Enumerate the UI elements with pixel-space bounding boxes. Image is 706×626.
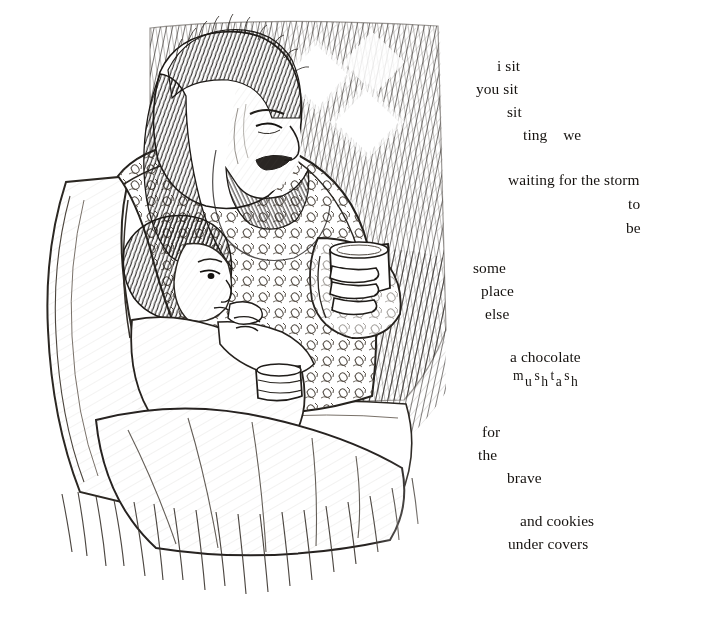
poem-line: and cookies (520, 513, 594, 528)
scramble-letter: s (564, 368, 569, 383)
scramble-letter: s (534, 368, 539, 383)
illustration-figure (0, 0, 460, 600)
child-mug (256, 364, 302, 401)
scramble-letter: u (525, 374, 532, 389)
poem-line: a chocolate (510, 349, 581, 364)
scramble-letter: m (513, 368, 524, 383)
poem-line: ting we (523, 127, 581, 142)
poem-line: place (481, 283, 514, 298)
poem-line: some (473, 260, 506, 275)
poem-line: sit (507, 104, 522, 119)
poem-scrambled-word: mushtash (513, 374, 580, 388)
scramble-letter: h (571, 374, 578, 389)
poem-text-block: i sit you sit sit ting we waiting for th… (455, 58, 700, 568)
scramble-letter: h (541, 374, 548, 389)
illustration-drawing (0, 0, 460, 600)
poem-line: be (626, 220, 641, 235)
poem-line: to (628, 196, 640, 211)
man-hand-with-mug (310, 238, 401, 338)
poem-line: waiting for the storm (508, 172, 640, 187)
poem-line: under covers (508, 536, 588, 551)
poem-line: for (482, 424, 500, 439)
poem-line: you sit (476, 81, 518, 96)
poem-line: brave (507, 470, 542, 485)
poem-line: the (478, 447, 497, 462)
poem-line: i sit (497, 58, 520, 73)
poem-line: else (485, 306, 509, 321)
scramble-letter: a (556, 374, 562, 389)
scramble-letter: t (550, 368, 554, 383)
